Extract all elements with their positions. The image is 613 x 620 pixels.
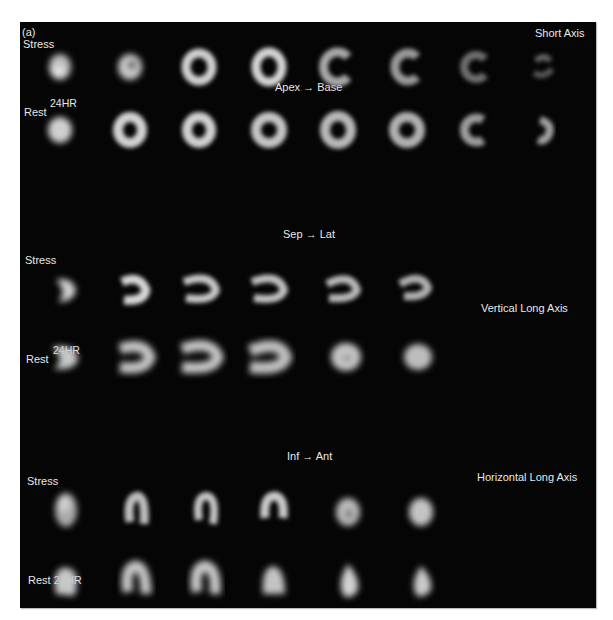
sa-stress-slice-6: [379, 39, 435, 95]
sa-stress-slice-3: [171, 39, 227, 95]
sa-rest-slice-8: [514, 102, 570, 158]
sa-rest-slice-5: [310, 102, 366, 158]
vla-rest-slice-3: [172, 329, 228, 385]
sa-rest-slice-1: [32, 102, 88, 158]
sa-stress-slice-5: [310, 39, 366, 95]
sa-stress-slice-1: [32, 39, 88, 95]
hla-stress-slice-4: [245, 484, 301, 540]
hla-stress-slice-2: [108, 484, 164, 540]
hla-stress-slice-5: [320, 484, 376, 540]
hla-rest-slice-1: [38, 554, 94, 608]
hla-stress-slice-1: [38, 484, 94, 540]
hla-rest-slice-5: [320, 554, 376, 608]
sa-rest-slice-6: [379, 102, 435, 158]
sa-stress-slice-7: [447, 39, 503, 95]
vla-stress-slice-5: [315, 262, 371, 318]
hla-rest-slice-4: [245, 554, 301, 608]
hla-rest-slice-3: [177, 554, 233, 608]
hla-stress-slice-3: [177, 484, 233, 540]
horizontal-long-axis-title: Horizontal Long Axis: [477, 471, 577, 483]
vla-rest-slice-6: [390, 329, 446, 385]
vertical-long-axis-title: Vertical Long Axis: [481, 302, 568, 314]
short-axis-title: Short Axis: [535, 27, 585, 39]
hla-rest-slice-6: [393, 554, 449, 608]
panel-label: (a): [22, 26, 35, 38]
sa-stress-slice-4: [241, 39, 297, 95]
vla-rest-slice-5: [318, 329, 374, 385]
sa-rest-slice-3: [171, 102, 227, 158]
vla-stress-slice-1: [38, 262, 94, 318]
vla-rest-slice-4: [240, 329, 296, 385]
vla-stress-slice-3: [172, 262, 228, 318]
vla-rest-slice-2: [106, 329, 162, 385]
vla-stress-slice-6: [388, 262, 444, 318]
vla-direction-label: Sep → Lat: [283, 228, 335, 240]
hla-rest-slice-2: [108, 554, 164, 608]
hla-stress-slice-6: [393, 484, 449, 540]
spect-figure-panel: (a) Stress Short Axis Apex → Base Rest 2…: [20, 22, 596, 608]
sa-stress-slice-2: [102, 39, 158, 95]
vla-stress-slice-4: [240, 262, 296, 318]
sa-stress-slice-8: [514, 39, 570, 95]
vla-rest-slice-1: [38, 329, 94, 385]
vla-stress-slice-2: [106, 262, 162, 318]
sa-rest-slice-4: [241, 102, 297, 158]
sa-rest-slice-7: [447, 102, 503, 158]
sa-rest-slice-2: [102, 102, 158, 158]
hla-direction-label: Inf → Ant: [287, 450, 332, 462]
